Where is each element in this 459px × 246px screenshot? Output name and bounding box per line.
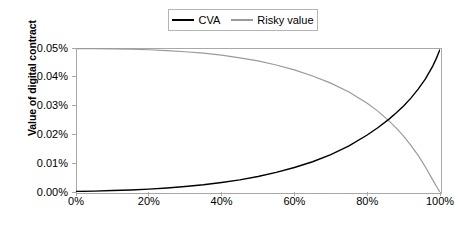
x-tick-label: 80% [342,196,392,207]
x-tick-label: 40% [197,196,247,207]
x-tick-label: 60% [269,196,319,207]
x-tick-label: 100% [415,196,459,207]
line-series-cva [76,49,440,191]
plot-lines [76,48,440,192]
line-series-risky-value [76,49,440,192]
x-tick-label: 0% [51,196,101,207]
x-tick-label: 20% [124,196,174,207]
